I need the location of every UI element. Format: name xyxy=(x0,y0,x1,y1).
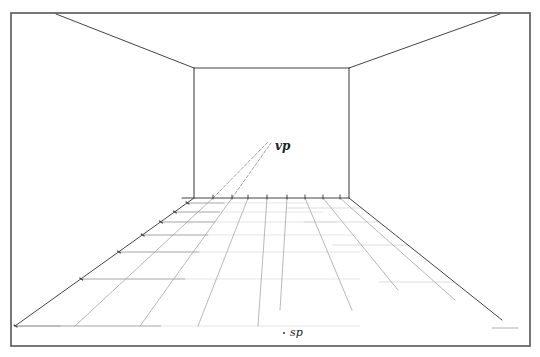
paper-background xyxy=(0,0,540,357)
station-point-marker xyxy=(283,332,285,334)
perspective-drawing xyxy=(0,0,540,357)
station-point-label: sp xyxy=(290,327,303,338)
vanishing-point-label: vp xyxy=(275,140,290,152)
